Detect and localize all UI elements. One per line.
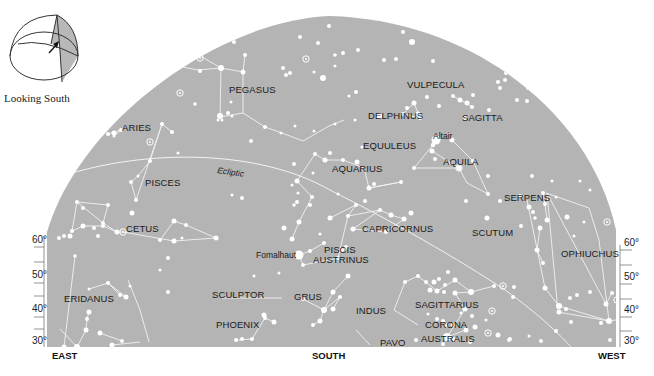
star: [367, 186, 372, 191]
star: [221, 119, 224, 122]
star: [295, 200, 299, 204]
star: [62, 234, 66, 238]
star: [288, 71, 292, 75]
star: [389, 213, 394, 218]
star: [453, 278, 458, 283]
star: [88, 288, 91, 291]
alt-label-right-30: 30°: [624, 335, 639, 346]
star: [541, 261, 545, 265]
star: [290, 237, 295, 242]
star: [217, 119, 220, 122]
star: [496, 333, 501, 338]
star: [354, 90, 358, 94]
star: [433, 157, 437, 161]
star: [394, 57, 398, 61]
star: [606, 318, 612, 324]
star: [173, 60, 176, 63]
star: [328, 216, 333, 221]
star: [557, 310, 562, 315]
star: [503, 78, 507, 82]
star: [241, 70, 246, 75]
star: [209, 45, 213, 49]
star: [498, 199, 502, 203]
constellation-label: ERIDANUS: [64, 293, 114, 304]
star: [249, 139, 253, 143]
star: [337, 193, 340, 196]
constellation-label: CETUS: [126, 223, 159, 234]
star: [124, 295, 129, 300]
star: [180, 61, 184, 65]
constellation-label: SCULPTOR: [212, 289, 264, 300]
star: [57, 236, 61, 240]
star: [327, 24, 331, 28]
star: [172, 219, 177, 224]
star: [533, 216, 537, 220]
star: [170, 62, 175, 67]
star: [538, 226, 543, 231]
star: [412, 166, 416, 170]
star: [87, 310, 92, 315]
star: [308, 203, 312, 207]
star: [430, 149, 435, 154]
constellation-label: CAPRICORNUS: [362, 223, 433, 234]
constellation-label: OPHIUCHUS: [561, 248, 619, 259]
star: [453, 291, 458, 296]
star: [403, 280, 407, 284]
star: [73, 254, 77, 258]
star: [134, 198, 138, 202]
star: [402, 217, 407, 222]
star: [470, 105, 474, 109]
star: [177, 152, 180, 155]
star: [231, 194, 234, 197]
star: [416, 274, 420, 278]
constellation-label: SAGITTARIUS: [415, 299, 479, 310]
star: [486, 174, 490, 178]
star: [511, 295, 515, 299]
star: [338, 295, 342, 299]
star: [218, 65, 224, 71]
constellation-label: SAGITTA: [462, 112, 503, 123]
star: [250, 337, 254, 341]
star: [120, 339, 124, 343]
star: [166, 256, 170, 260]
star: [341, 51, 345, 55]
star: [568, 296, 572, 300]
constellation-label: INDUS: [356, 305, 386, 316]
star: [328, 151, 332, 155]
star: [428, 288, 433, 293]
star: [545, 218, 550, 223]
altitude-scale-left: [34, 236, 44, 347]
star: [106, 132, 110, 136]
star: [148, 159, 152, 163]
star: [464, 199, 468, 203]
star: [70, 229, 74, 233]
star: [231, 115, 234, 118]
star: [198, 69, 202, 73]
star: [263, 316, 267, 320]
star: [431, 59, 435, 63]
star: [504, 71, 508, 75]
star: [496, 80, 500, 84]
star: [526, 86, 530, 90]
star: [159, 269, 162, 272]
star: [170, 130, 174, 134]
star: [401, 30, 405, 34]
star: [62, 345, 67, 350]
constellation-label: AQUILA: [443, 156, 479, 167]
star: [427, 313, 430, 316]
star: [137, 175, 140, 178]
star: [498, 86, 502, 90]
star: [599, 321, 603, 325]
star: [414, 338, 418, 342]
star: [113, 135, 116, 138]
star: [515, 98, 519, 102]
star: [620, 317, 624, 321]
star: [334, 123, 337, 126]
star: [583, 221, 586, 224]
star: [569, 320, 573, 324]
alt-label-left-60: 60°: [32, 234, 47, 245]
star: [334, 65, 337, 68]
star: [313, 71, 316, 74]
constellation-label: AUSTRINUS: [313, 254, 369, 265]
star: [451, 94, 455, 98]
